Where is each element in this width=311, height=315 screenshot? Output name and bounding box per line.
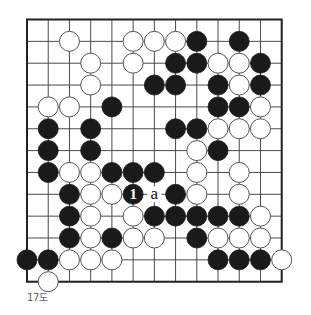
black-stone: [187, 228, 207, 248]
white-stone: [59, 97, 79, 117]
white-stone: [59, 250, 79, 270]
black-stone: [187, 119, 207, 139]
white-stone: [187, 141, 207, 161]
black-stone: [187, 53, 207, 73]
white-stone: [81, 184, 101, 204]
black-stone: [166, 119, 186, 139]
black-stone: [123, 162, 143, 182]
black-stone: [250, 53, 270, 73]
white-stone: [208, 228, 228, 248]
point-label-marker: a: [151, 184, 159, 203]
black-stone: [38, 141, 58, 161]
white-stone: [250, 206, 270, 226]
black-stone: [102, 97, 122, 117]
white-stone: [250, 97, 270, 117]
white-stone: [229, 162, 249, 182]
black-stone: [102, 228, 122, 248]
black-stone: [208, 206, 228, 226]
white-stone: [272, 250, 292, 270]
black-stone: [166, 75, 186, 95]
white-stone: [229, 75, 249, 95]
white-stone: [229, 53, 249, 73]
black-stone: [229, 250, 249, 270]
white-stone: [81, 75, 101, 95]
white-stone: [102, 250, 122, 270]
white-stone: [59, 31, 79, 51]
black-stone: [38, 250, 58, 270]
white-stone: [229, 184, 249, 204]
white-stone: [229, 119, 249, 139]
black-stone: [144, 206, 164, 226]
black-stone: [59, 184, 79, 204]
black-stone: [208, 75, 228, 95]
white-stone: [144, 228, 164, 248]
white-stone: [123, 206, 143, 226]
white-stone: [250, 119, 270, 139]
black-stone: [59, 206, 79, 226]
white-stone: [81, 162, 101, 182]
black-stone: [229, 206, 249, 226]
black-stone: 1: [123, 184, 143, 204]
white-stone: [102, 184, 122, 204]
white-stone: [81, 53, 101, 73]
black-stone: [229, 97, 249, 117]
black-stone: [208, 141, 228, 161]
black-stone: [38, 162, 58, 182]
white-stone: [208, 53, 228, 73]
white-stone: [38, 97, 58, 117]
white-stone: [250, 228, 270, 248]
black-stone: [17, 250, 37, 270]
go-board: 1 a: [0, 0, 311, 315]
black-stone: [208, 97, 228, 117]
white-stone: [187, 184, 207, 204]
black-stone: [166, 53, 186, 73]
white-stone: [81, 228, 101, 248]
white-stone: [144, 31, 164, 51]
white-stone: [123, 228, 143, 248]
white-stone: [187, 162, 207, 182]
white-stone: [81, 206, 101, 226]
black-stone: [166, 206, 186, 226]
black-stone: [229, 31, 249, 51]
black-stone: [208, 250, 228, 270]
black-stone: [250, 250, 270, 270]
black-stone: [81, 119, 101, 139]
white-stone: [123, 53, 143, 73]
black-stone: [38, 119, 58, 139]
black-stone: [187, 31, 207, 51]
white-stone: [81, 250, 101, 270]
markers-layer: a: [147, 184, 161, 203]
black-stone: [144, 162, 164, 182]
black-stone: [144, 75, 164, 95]
stone-move-number: 1: [129, 186, 137, 202]
black-stone: [187, 206, 207, 226]
black-stone: [166, 184, 186, 204]
white-stone: [166, 31, 186, 51]
black-stone: [102, 162, 122, 182]
white-stone: [229, 228, 249, 248]
white-stone: [123, 31, 143, 51]
white-stone: [208, 119, 228, 139]
diagram-caption: 17도: [27, 289, 48, 304]
black-stone: [81, 141, 101, 161]
black-stone: [59, 228, 79, 248]
white-stone: [59, 162, 79, 182]
black-stone: [250, 75, 270, 95]
